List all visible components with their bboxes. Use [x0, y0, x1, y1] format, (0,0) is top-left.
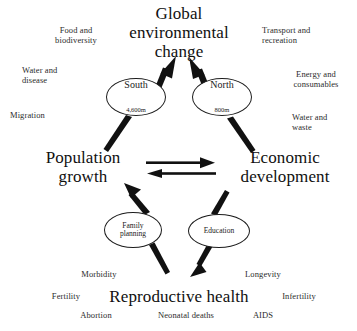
edge-family-planning-to-reproductive-health: [149, 243, 170, 275]
satellite-abortion: Abortion: [66, 311, 126, 321]
edge-economic-development-to-education: [211, 190, 230, 216]
ellipse-north: North 800m: [192, 78, 252, 116]
satellite-longevity: Longevity: [232, 270, 294, 280]
satellite-food-and-biodiversity: Food and biodiversity: [38, 26, 114, 45]
satellite-migration: Migration: [10, 111, 80, 121]
satellite-energy-and-consumables: Energy and consumables: [278, 70, 354, 89]
satellite-water-and-disease: Water and disease: [22, 66, 96, 85]
ellipse-south-text: South 4,600m: [124, 63, 147, 131]
ellipse-south-label: South: [124, 80, 147, 91]
satellite-transport-and-recreation: Transport and recreation: [262, 26, 350, 45]
edge-population-to-economic-arrow: [146, 157, 215, 168]
satellite-water-and-waste: Water and waste: [292, 113, 354, 132]
node-population-growth: Population growth: [28, 148, 138, 186]
ellipse-south: South 4,600m: [106, 78, 166, 116]
edge-family-planning-to-population-growth: [124, 183, 150, 215]
ellipse-family-planning: Family planning: [104, 212, 162, 248]
ellipse-family-planning-label: Family planning: [120, 222, 146, 239]
satellite-fertility: Fertility: [38, 292, 94, 302]
ellipse-north-text: North 800m: [210, 63, 233, 131]
ellipse-education-label: Education: [204, 227, 234, 235]
node-reproductive-health: Reproductive health: [94, 287, 264, 306]
node-economic-development: Economic development: [220, 148, 350, 186]
environment-population-diagram: Global environmental change Population g…: [0, 0, 357, 331]
node-global-environmental-change: Global environmental change: [118, 4, 240, 61]
ellipse-north-label: North: [210, 80, 233, 91]
satellite-aids: AIDS: [238, 311, 288, 321]
ellipse-education: Education: [188, 214, 250, 248]
satellite-neonatal-deaths: Neonatal deaths: [142, 311, 230, 321]
ellipse-north-value: 800m: [210, 107, 233, 114]
edge-economic-to-population-arrow: [147, 169, 216, 178]
ellipse-south-value: 4,600m: [124, 107, 147, 114]
satellite-infertility: Infertility: [268, 292, 330, 302]
satellite-morbidity: Morbidity: [68, 270, 130, 280]
